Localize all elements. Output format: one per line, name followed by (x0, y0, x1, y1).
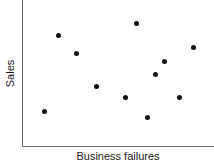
x-axis-spine (22, 146, 214, 147)
data-point (191, 45, 196, 50)
data-point (123, 95, 128, 100)
data-point (94, 84, 99, 89)
y-axis-label: Sales (3, 0, 17, 147)
scatter-plot-figure: Sales Business failures (0, 0, 214, 161)
data-point (56, 33, 61, 38)
data-point (134, 21, 139, 26)
data-point (153, 72, 158, 77)
data-point (177, 95, 182, 100)
plot-area (22, 0, 214, 147)
data-point (74, 51, 79, 56)
data-point (42, 109, 47, 114)
data-point (145, 115, 150, 120)
y-axis-spine (22, 0, 23, 147)
data-point (162, 59, 167, 64)
x-axis-label: Business failures (22, 150, 214, 161)
y-axis-label-container: Sales (0, 0, 22, 147)
